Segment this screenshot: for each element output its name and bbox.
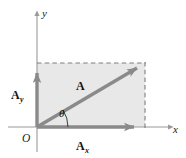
vector-diagram-canvas: x y O θ A A x A y	[0, 0, 186, 158]
angle-theta-label: θ	[59, 107, 65, 119]
x-axis-label: x	[172, 123, 178, 135]
vector-components-figure: x y O θ A A x A y	[0, 0, 186, 158]
vector-ax-label: A	[76, 139, 85, 153]
vector-ax-subscript: x	[84, 146, 89, 155]
origin-label: O	[22, 132, 31, 144]
vector-ay-subscript: y	[19, 95, 24, 104]
vector-a-label: A	[76, 79, 85, 93]
y-axis-arrowhead	[34, 11, 39, 17]
y-axis-label: y	[41, 7, 47, 19]
vector-ay-label: A	[11, 88, 20, 102]
